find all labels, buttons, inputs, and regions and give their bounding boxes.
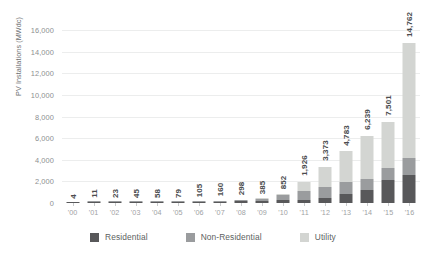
legend-swatch-icon	[90, 233, 99, 242]
bar-total-label: 7,501	[384, 95, 393, 116]
x-axis-tick-label: '00	[68, 208, 78, 217]
stacked-bar[interactable]	[319, 167, 332, 203]
bar-segment-residential	[382, 180, 395, 203]
x-axis-tick-label: '01	[89, 208, 99, 217]
bar-segment-non-residential	[403, 158, 416, 175]
y-axis-tick-label: 16,000	[31, 26, 54, 35]
x-axis-tick	[94, 203, 95, 206]
bar-total-label: 45	[131, 189, 140, 198]
bar-series-area: 411234558791051602983858521,9263,3734,78…	[62, 30, 420, 203]
x-axis-tick	[367, 203, 368, 206]
y-axis-tick-label: 14,000	[31, 47, 54, 56]
bar-group[interactable]: 3,373	[315, 30, 336, 203]
bar-total-label: 160	[215, 183, 224, 197]
bar-group[interactable]: 1,926	[294, 30, 315, 203]
bar-group[interactable]: 58	[146, 30, 167, 203]
bar-total-label: 11	[89, 190, 98, 199]
x-axis-tick	[220, 203, 221, 206]
bar-total-label: 58	[152, 189, 161, 198]
stacked-bar[interactable]	[403, 43, 416, 203]
x-axis-tick-label: '06	[194, 208, 204, 217]
bar-group[interactable]: 385	[252, 30, 273, 203]
legend-item-utility[interactable]: Utility	[300, 232, 336, 242]
x-axis-tick	[409, 203, 410, 206]
chart-legend: ResidentialNon-ResidentialUtility	[0, 232, 426, 242]
bar-group[interactable]: 45	[125, 30, 146, 203]
x-axis: '00'01'02'03'04'05'06'07'08'09'10'11'12'…	[62, 203, 420, 225]
x-axis-tick	[157, 203, 158, 206]
bar-segment-utility	[382, 122, 395, 168]
bar-segment-utility	[298, 182, 311, 191]
x-axis-tick-label: '07	[215, 208, 225, 217]
x-axis-tick	[304, 203, 305, 206]
x-axis-tick-label: '05	[173, 208, 183, 217]
bar-total-label: 298	[236, 182, 245, 196]
x-axis-tick	[388, 203, 389, 206]
x-axis-tick-label: '04	[152, 208, 162, 217]
bar-group[interactable]: 4,783	[336, 30, 357, 203]
bar-segment-non-residential	[340, 182, 353, 194]
bar-segment-non-residential	[382, 168, 395, 180]
y-axis-tick-label: 10,000	[31, 90, 54, 99]
legend-swatch-icon	[186, 233, 195, 242]
legend-label: Residential	[105, 232, 148, 242]
x-axis-tick-label: '12	[320, 208, 330, 217]
stacked-bar[interactable]	[340, 151, 353, 203]
x-axis-tick-label: '03	[131, 208, 141, 217]
x-axis-tick-label: '15	[384, 208, 394, 217]
stacked-bar[interactable]	[277, 194, 290, 203]
pv-installations-chart: PV Installations (MWdc) 16,00014,00012,0…	[0, 0, 426, 267]
bar-segment-utility	[403, 43, 416, 158]
bar-total-label: 14,762	[405, 12, 414, 37]
y-axis-tick-label: 12,000	[31, 69, 54, 78]
bar-group[interactable]: 160	[209, 30, 230, 203]
bar-segment-non-residential	[361, 179, 374, 190]
bar-segment-residential	[361, 190, 374, 203]
bar-group[interactable]: 4	[62, 30, 83, 203]
bar-group[interactable]: 105	[188, 30, 209, 203]
x-axis-tick-label: '14	[363, 208, 373, 217]
legend-swatch-icon	[300, 233, 309, 242]
bar-group[interactable]: 298	[230, 30, 251, 203]
bar-segment-non-residential	[298, 191, 311, 200]
x-axis-tick	[178, 203, 179, 206]
x-axis-tick-label: '13	[341, 208, 351, 217]
bar-group[interactable]: 11	[83, 30, 104, 203]
bar-group[interactable]: 23	[104, 30, 125, 203]
x-axis-tick	[262, 203, 263, 206]
bar-group[interactable]: 6,239	[357, 30, 378, 203]
x-axis-tick-label: '16	[405, 208, 415, 217]
y-axis-tick-label: 6,000	[35, 134, 54, 143]
stacked-bar[interactable]	[298, 182, 311, 203]
bar-group[interactable]: 14,762	[399, 30, 420, 203]
bar-total-label: 4	[68, 194, 77, 199]
stacked-bar[interactable]	[361, 136, 374, 203]
bar-group[interactable]: 7,501	[378, 30, 399, 203]
bar-total-label: 3,373	[321, 140, 330, 161]
y-axis-tick-label: 8,000	[35, 112, 54, 121]
y-axis-tick-labels: 16,00014,00012,00010,0008,0006,0004,0002…	[0, 30, 58, 203]
legend-item-non-residential[interactable]: Non-Residential	[186, 232, 262, 242]
x-axis-tick	[73, 203, 74, 206]
bar-group[interactable]: 852	[273, 30, 294, 203]
y-axis-tick-label: 2,000	[35, 177, 54, 186]
bar-segment-utility	[340, 151, 353, 182]
x-axis-tick	[346, 203, 347, 206]
bar-total-label: 23	[110, 189, 119, 198]
bar-total-label: 4,783	[342, 125, 351, 146]
stacked-bar[interactable]	[382, 122, 395, 203]
bar-group[interactable]: 79	[167, 30, 188, 203]
bar-total-label: 79	[173, 189, 182, 198]
legend-label: Utility	[315, 232, 336, 242]
legend-label: Non-Residential	[201, 232, 262, 242]
x-axis-tick-label: '09	[257, 208, 267, 217]
bar-total-label: 385	[258, 181, 267, 195]
x-axis-tick-label: '02	[110, 208, 120, 217]
x-axis-tick-label: '11	[300, 208, 309, 217]
x-axis-tick	[136, 203, 137, 206]
bar-segment-residential	[403, 175, 416, 203]
bar-segment-non-residential	[319, 187, 332, 198]
bar-segment-utility	[361, 136, 374, 179]
legend-item-residential[interactable]: Residential	[90, 232, 148, 242]
bar-segment-utility	[319, 167, 332, 187]
